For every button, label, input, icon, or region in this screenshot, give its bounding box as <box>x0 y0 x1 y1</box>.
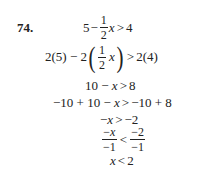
term: 5 <box>83 20 90 36</box>
relation: < <box>120 132 127 148</box>
variable: x <box>109 20 115 36</box>
relation: > <box>117 20 124 36</box>
fraction: 1 2 <box>100 14 108 41</box>
step-6: −x −1 < −2 −1 <box>101 126 146 153</box>
rhs: 2(4) <box>136 49 158 65</box>
fraction: 1 2 <box>98 44 106 71</box>
right-paren: ) <box>116 42 123 72</box>
lhs: 10 − <box>85 78 112 94</box>
right-fraction: −2 −1 <box>130 126 145 153</box>
numerator: −x <box>102 126 116 138</box>
numerator: 1 <box>98 44 106 56</box>
numerator: 1 <box>100 14 108 26</box>
problem-number: 74. <box>17 20 33 36</box>
term: 2(5) − 2 <box>45 49 87 65</box>
variable: x <box>114 95 120 111</box>
numerator: −2 <box>130 126 145 138</box>
variable: x <box>110 153 116 169</box>
relation: > <box>122 95 129 111</box>
rhs: 8 <box>129 78 136 94</box>
denominator: −1 <box>130 141 145 153</box>
operator: − <box>91 20 98 36</box>
relation: > <box>127 49 134 65</box>
denominator: −1 <box>102 141 117 153</box>
step-2: 2(5) − 2 ( 1 2 x ) > 2(4) <box>45 42 158 72</box>
rhs: −10 + 8 <box>131 95 172 111</box>
left-paren: ( <box>89 42 96 72</box>
relation: < <box>118 153 125 169</box>
denominator: 2 <box>100 29 108 41</box>
variable: x <box>109 49 115 65</box>
variable: x <box>112 78 118 94</box>
lhs: −10 + 10 − <box>53 95 114 111</box>
rhs: 2 <box>127 153 134 169</box>
relation: > <box>120 78 127 94</box>
step-3: 10 − x > 8 <box>85 78 135 94</box>
step-1: 5 − 1 2 x > 4 <box>83 14 132 41</box>
step-7: x < 2 <box>110 153 134 169</box>
rhs: 4 <box>126 20 133 36</box>
denominator: 2 <box>98 59 106 71</box>
left-fraction: −x −1 <box>102 126 117 153</box>
step-4: −10 + 10 − x > −10 + 8 <box>53 95 172 111</box>
